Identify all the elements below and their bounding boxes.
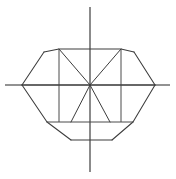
figure-root	[0, 0, 176, 179]
gem-outline-figure	[0, 0, 176, 179]
